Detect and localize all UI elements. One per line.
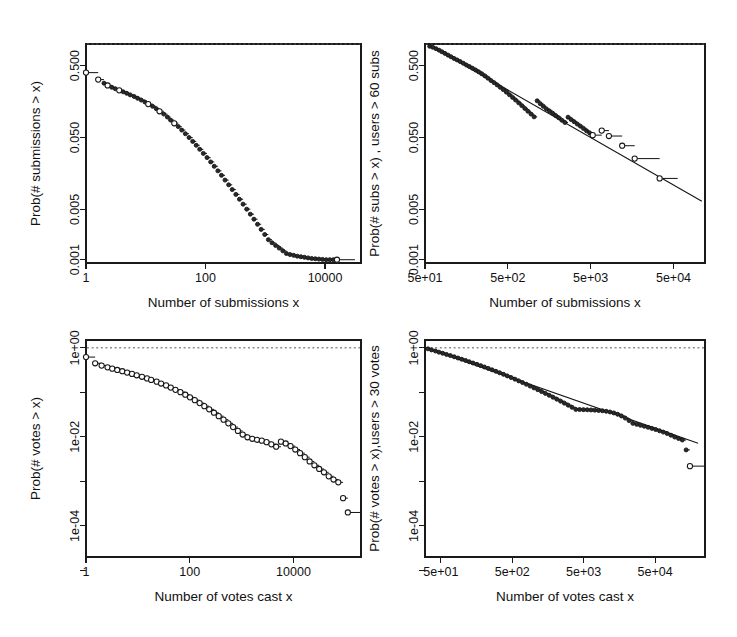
data-point [334,257,339,262]
data-point [235,428,240,433]
data-point [227,183,231,187]
data-point [274,243,278,247]
y-tick-label: 0.500 [69,50,83,81]
data-point [687,464,692,469]
data-point [471,361,475,365]
plot-frame [86,44,361,263]
y-axis-top-right: 0.5000.0500.0050.001 [408,50,426,275]
x-axis-title: Number of votes cast x [154,589,292,604]
data-point [172,121,177,126]
plot-frame [425,44,705,263]
data-point [288,444,293,449]
data-point [194,143,198,147]
data-point [96,77,101,82]
data-point [460,357,464,361]
data-point [604,409,608,413]
figure-canvas: 110010000Number of submissions x0.5000.0… [0,0,737,637]
data-point [256,222,260,226]
data-point [158,381,163,386]
x-tick-label: 5e+03 [573,271,608,285]
y-tick-label: 0.500 [408,50,422,81]
data-point [263,233,267,237]
data-point [482,365,486,369]
data-point [212,164,216,168]
data-series [83,354,360,515]
data-point [209,160,213,164]
data-point [623,416,627,420]
x-tick-label: 10000 [276,565,311,579]
y-tick-label: 0.005 [69,194,83,225]
data-point [226,421,231,426]
x-axis-bottom-left: 110010000 [83,557,311,579]
data-point [307,459,312,464]
data-point [340,496,345,501]
y-axis-title: Prob(# subs > x) , users > 60 subs [367,50,382,257]
data-point [266,238,270,242]
data-point [205,156,209,160]
x-axis-title: Number of votes cast x [496,589,634,604]
data-point [448,354,452,358]
x-tick-label: 5e+03 [566,565,601,579]
data-point [600,409,604,413]
data-point [302,455,307,460]
x-tick-label: 5e+04 [656,271,691,285]
y-tick-label: 0.001 [408,244,422,275]
data-point [216,414,221,419]
y-tick-label: 0.001 [69,244,83,275]
y-tick-label: 0.050 [69,122,83,153]
data-series [428,44,678,181]
x-tick-label: 5e+02 [490,271,525,285]
x-tick-label: 5e+01 [423,565,458,579]
y-tick-label: 1e+00 [408,330,422,365]
x-axis-bottom-right: 5e+015e+025e+035e+04 [423,557,672,579]
data-point [187,136,191,140]
data-point [345,510,350,515]
data-point [547,393,551,397]
data-point [627,419,631,423]
data-point [115,367,120,372]
panel-top-right: 5e+015e+025e+035e+04Number of submission… [367,44,705,310]
x-axis-top-left: 110010000 [83,263,343,285]
data-point [532,115,536,119]
data-point [221,417,226,422]
data-point [234,192,238,196]
data-point [632,156,637,161]
data-point [191,139,195,143]
data-point [151,104,155,108]
data-point [139,374,144,379]
data-point [326,474,331,479]
y-tick-label: 1e-02 [69,421,83,453]
data-point [202,404,207,409]
data-point [241,202,245,206]
data-point [430,348,434,352]
data-point [216,169,220,173]
x-axis-title: Number of submissions x [489,295,641,310]
data-point [252,217,256,221]
data-point [317,466,322,471]
data-point [562,401,566,405]
data-point [657,176,662,181]
panel-bottom-left: 110010000Number of votes cast x1e+001e-0… [28,330,361,604]
panel-top-left: 110010000Number of submissions x0.5000.0… [28,44,361,310]
x-tick-label: 1 [83,271,90,285]
data-point [173,387,178,392]
panel-bottom-right: 5e+015e+025e+035e+04Number of votes cast… [367,330,705,604]
data-point [498,371,502,375]
x-axis-top-right: 5e+015e+025e+035e+04 [407,263,691,285]
data-point [331,477,336,482]
y-tick-label: 1e-02 [408,421,422,453]
data-point [684,448,688,452]
y-axis-top-left: 0.5000.0500.0050.001 [69,50,87,275]
data-point [321,470,326,475]
data-point [606,133,611,138]
data-point [146,101,151,106]
data-point [198,147,202,151]
y-axis-bottom-left: 1e+001e-021e-04 [69,330,87,570]
y-tick-label: 1e-04 [69,510,83,542]
data-point [543,391,547,395]
y-axis-title: Prob(# votes > x),users > 30 votes [367,345,382,552]
data-point [207,407,212,412]
data-point [83,70,88,75]
y-tick-label: 1e-04 [408,510,422,542]
data-point [277,246,281,250]
